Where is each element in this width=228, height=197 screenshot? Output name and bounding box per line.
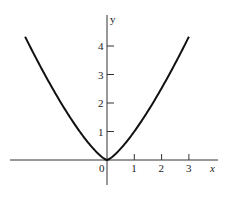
x-tick-label: 2	[159, 162, 165, 174]
x-tick-label: 3	[186, 162, 192, 174]
y-axis-label: y	[110, 13, 116, 25]
x-axis-label: x	[209, 162, 215, 174]
y-ticks: 1234	[98, 40, 114, 138]
y-tick-label: 4	[98, 40, 104, 52]
origin-label: 0	[99, 162, 105, 174]
y-tick-label: 2	[98, 97, 104, 109]
y-tick-label: 1	[98, 126, 104, 138]
chart: 123 1234 0 x y	[0, 0, 228, 197]
y-tick-label: 3	[98, 69, 104, 81]
x-tick-label: 1	[131, 162, 137, 174]
x-ticks: 123	[131, 154, 192, 174]
